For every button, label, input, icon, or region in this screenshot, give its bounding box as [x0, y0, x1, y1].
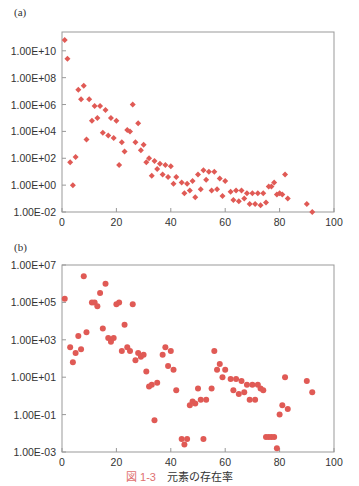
data-point: [127, 348, 133, 354]
data-point: [260, 190, 266, 196]
data-point: [100, 130, 106, 136]
data-point: [249, 190, 255, 196]
data-point: [86, 96, 92, 102]
data-point: [92, 103, 98, 109]
data-point: [62, 37, 68, 43]
data-point: [179, 436, 185, 442]
data-point: [64, 56, 70, 62]
data-point: [138, 147, 144, 153]
data-point: [203, 177, 209, 183]
x-tick-label: 80: [274, 456, 286, 468]
data-point: [162, 344, 168, 350]
y-tick-label: 1.00E+03: [11, 334, 56, 346]
data-point: [206, 169, 212, 175]
data-point: [285, 406, 291, 412]
data-point: [160, 352, 166, 358]
data-point: [168, 163, 174, 169]
data-point: [219, 374, 225, 380]
data-point: [149, 173, 155, 179]
data-point: [151, 158, 157, 164]
data-point: [132, 357, 138, 363]
data-point: [228, 376, 234, 382]
data-point: [122, 149, 128, 155]
data-point: [209, 385, 215, 391]
data-point: [200, 436, 206, 442]
data-point: [154, 380, 160, 386]
data-point: [309, 389, 315, 395]
y-tick-label: 1.00E-03: [13, 446, 56, 458]
data-point: [214, 186, 220, 192]
data-point: [263, 200, 269, 206]
data-point: [198, 397, 204, 403]
data-point: [168, 348, 174, 354]
data-point: [179, 179, 185, 185]
x-tick-label: 100: [325, 456, 343, 468]
data-point: [116, 299, 122, 305]
data-point: [228, 189, 234, 195]
data-point: [184, 181, 190, 187]
data-point: [233, 376, 239, 382]
data-point: [165, 363, 171, 369]
figure-caption: 図 1-3 元素の存在率: [0, 468, 359, 484]
data-point: [171, 367, 177, 373]
data-point: [160, 171, 166, 177]
data-point: [111, 135, 117, 141]
data-point: [103, 281, 109, 287]
data-point: [260, 387, 266, 393]
data-point: [222, 367, 228, 373]
data-point: [222, 178, 228, 184]
y-tick-label: 1.00E+00: [11, 179, 56, 191]
data-point: [219, 193, 225, 199]
y-tick-label: 1.00E+10: [11, 45, 56, 57]
data-point: [282, 171, 288, 177]
data-point: [209, 188, 215, 194]
y-tick-label: 1.00E+05: [11, 296, 56, 308]
y-tick-label: 1.00E+08: [11, 72, 56, 84]
data-point: [73, 350, 79, 356]
data-point: [100, 326, 106, 332]
data-point: [154, 166, 160, 172]
data-point: [282, 374, 288, 380]
x-tick-label: 0: [59, 216, 65, 228]
scatter-chart-b: 1.00E-031.00E-011.00E+011.00E+031.00E+05…: [11, 259, 343, 468]
data-point: [73, 154, 79, 160]
data-point: [279, 402, 285, 408]
data-point: [233, 188, 239, 194]
data-point: [143, 369, 149, 375]
data-point: [83, 329, 89, 335]
x-tick-label: 60: [219, 216, 231, 228]
x-tick-label: 20: [111, 216, 123, 228]
data-point: [130, 102, 136, 108]
data-point: [81, 273, 87, 279]
data-point: [271, 434, 277, 440]
data-point: [244, 190, 250, 196]
data-point: [184, 436, 190, 442]
data-point: [277, 412, 283, 418]
data-point: [157, 161, 163, 167]
data-point: [214, 367, 220, 373]
data-point: [97, 103, 103, 109]
y-tick-label: 1.00E+06: [11, 99, 56, 111]
data-point: [241, 389, 247, 395]
x-tick-label: 20: [111, 456, 123, 468]
data-point: [192, 194, 198, 200]
data-point: [217, 175, 223, 181]
data-point: [141, 352, 147, 358]
data-point: [252, 397, 258, 403]
data-point: [135, 120, 141, 126]
data-point: [211, 169, 217, 175]
data-point: [94, 303, 100, 309]
data-point: [200, 167, 206, 173]
data-point: [75, 333, 81, 339]
data-point: [241, 196, 247, 202]
charts-canvas: 1.00E-021.00E+001.00E+021.00E+041.00E+06…: [0, 0, 359, 486]
data-point: [119, 139, 125, 145]
data-point: [70, 182, 76, 188]
x-tick-label: 40: [165, 456, 177, 468]
data-point: [67, 344, 73, 350]
data-point: [203, 397, 209, 403]
data-point: [239, 188, 245, 194]
data-point: [103, 107, 109, 113]
data-point: [70, 359, 76, 365]
data-point: [304, 378, 310, 384]
